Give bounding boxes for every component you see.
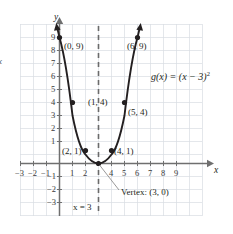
- point-label-4-1: (4, 1): [114, 147, 134, 156]
- point-label-5-4: (5, 4): [128, 108, 148, 117]
- y-axis-label: y: [54, 13, 58, 23]
- point-6-9: [135, 35, 140, 40]
- x-tick-label-6: 6: [135, 169, 139, 178]
- point-label-6-9: (6, 9): [127, 42, 147, 51]
- x-tick-label-1: 1: [70, 169, 74, 178]
- coordinate-plane-svg: [0, 0, 233, 234]
- x-tick-label-neg1: −1: [41, 169, 50, 178]
- point-label-0-9: (0, 9): [64, 42, 84, 51]
- x-tick-label-2: 2: [83, 169, 87, 178]
- function-equation-exponent: 2: [207, 70, 210, 77]
- point-label-1-4: (1, 4): [88, 98, 108, 107]
- point-5-4: [122, 100, 127, 105]
- graph-figure: x: [0, 0, 233, 234]
- y-tick-label-9: 9: [51, 33, 55, 42]
- y-tick-label-neg3: −3: [47, 198, 56, 207]
- point-0-9: [57, 35, 62, 40]
- x-axis-label: x: [214, 166, 218, 176]
- y-tick-label-3: 3: [51, 111, 55, 120]
- x-tick-label-5: 5: [122, 169, 126, 178]
- function-equation-text: g(x) = (x − 3): [151, 71, 207, 82]
- x-tick-label-neg3: −3: [15, 169, 24, 178]
- function-equation-label: g(x) = (x − 3)2: [151, 71, 210, 82]
- y-tick-label-2: 2: [51, 124, 55, 133]
- x-tick-label-9: 9: [174, 169, 178, 178]
- x-tick-label-neg2: −2: [28, 169, 37, 178]
- y-tick-label-7: 7: [51, 59, 55, 68]
- point-2-1: [83, 148, 88, 153]
- y-tick-label-8: 8: [51, 46, 55, 55]
- y-tick-label-4: 4: [51, 98, 55, 107]
- point-1-4: [70, 100, 75, 105]
- x-tick-label-4: 4: [109, 169, 113, 178]
- point-label-2-1: (2, 1): [62, 147, 82, 156]
- x-tick-label-7: 7: [148, 169, 152, 178]
- x-axis-arrow: [207, 160, 214, 167]
- y-tick-label-1: 1: [51, 137, 55, 146]
- y-tick-label-6: 6: [51, 72, 55, 81]
- x-tick-label-8: 8: [161, 169, 165, 178]
- y-tick-label-5: 5: [51, 85, 55, 94]
- y-tick-label-neg2: −2: [47, 185, 56, 194]
- axis-of-symmetry-label: x = 3: [73, 203, 92, 212]
- vertex-annotation-label: Vertex: (3, 0): [121, 188, 169, 197]
